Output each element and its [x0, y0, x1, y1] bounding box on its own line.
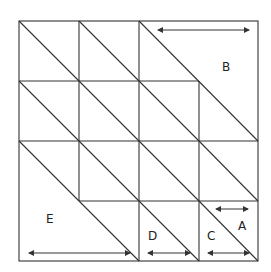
- label-a: A: [238, 219, 247, 233]
- grid-lines: [19, 21, 258, 261]
- label-b: B: [222, 60, 230, 74]
- label-c: C: [207, 229, 215, 243]
- diagram: B E D C A: [0, 0, 271, 272]
- label-d: D: [148, 229, 157, 243]
- label-e: E: [46, 212, 54, 226]
